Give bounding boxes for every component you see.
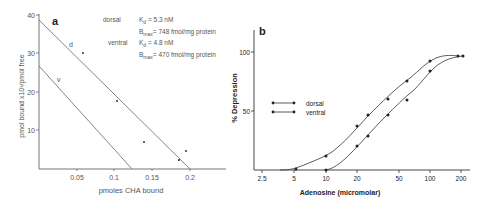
panel-a-xtick: 0.1 [109, 174, 119, 181]
panel-b-xtick: 100 [425, 175, 436, 182]
legend-dorsal: dorsal [306, 100, 324, 107]
panel-b-legend: dorsal ventral [272, 100, 326, 116]
ann-dorsal-bmax: Bmax= 748 fmol/mg protein [139, 28, 216, 37]
panel-a-points [82, 52, 187, 161]
panel-b-ytick: 100 [239, 49, 250, 56]
panel-b-ytick: 50 [243, 108, 251, 115]
panel-a-ytick: 30 [27, 50, 35, 57]
panel-a-xtick: 0.05 [70, 174, 84, 181]
panel-b-letter: b [259, 25, 266, 37]
panel-b-y-label: % Depression [230, 73, 239, 123]
ventral-curve [326, 56, 462, 170]
panel-a-ytick: 10 [27, 127, 35, 134]
ann-ventral-label: ventral [108, 39, 128, 46]
panel-b-xtick: 5 [292, 175, 296, 182]
panel-a-xtick: 0.2 [185, 174, 195, 181]
panel-b-xtick: 20 [353, 175, 361, 182]
ann-ventral-bmax: Bmax= 470 fmol/mg protein [139, 51, 216, 60]
ventral-points [325, 55, 465, 172]
panel-a-xtick: 0.15 [145, 174, 159, 181]
panel-a-letter: a [52, 15, 59, 27]
panel-a-x-label: pmoles CHA bound [99, 186, 164, 195]
panel-b-xtick: 50 [395, 175, 403, 182]
dorsal-line-label: d [69, 41, 73, 48]
ann-dorsal-kd: Kd = 5.3 nM [139, 16, 173, 25]
ann-ventral-kd: Kd = 4.8 nM [139, 39, 173, 48]
panel-a: 40 30 20 10 0.05 0.1 0.15 0.2 pmoles CHA… [18, 12, 226, 195]
panel-b-xtick: 200 [456, 175, 467, 182]
panel-b-xtick: 2.5 [257, 175, 266, 182]
panel-a-ytick: 20 [27, 89, 35, 96]
figure: 40 30 20 10 0.05 0.1 0.15 0.2 pmoles CHA… [0, 0, 485, 202]
panel-b: 100 50 2.5 5 10 20 50 100 200 Adenosine … [230, 25, 470, 197]
ventral-line-label: v [57, 76, 61, 83]
panel-b-x-label: Adenosine (micromolar) [300, 189, 381, 197]
panel-a-ytick: 40 [27, 12, 35, 19]
ann-dorsal-label: dorsal [103, 16, 121, 23]
ventral-regression-line [39, 66, 132, 169]
legend-ventral: ventral [306, 109, 326, 116]
panel-a-annotations: dorsal Kd = 5.3 nM Bmax= 748 fmol/mg pro… [103, 16, 216, 60]
panel-a-y-label: pmol bound x10³/pmol free [18, 54, 26, 137]
panel-b-xtick: 10 [322, 175, 330, 182]
